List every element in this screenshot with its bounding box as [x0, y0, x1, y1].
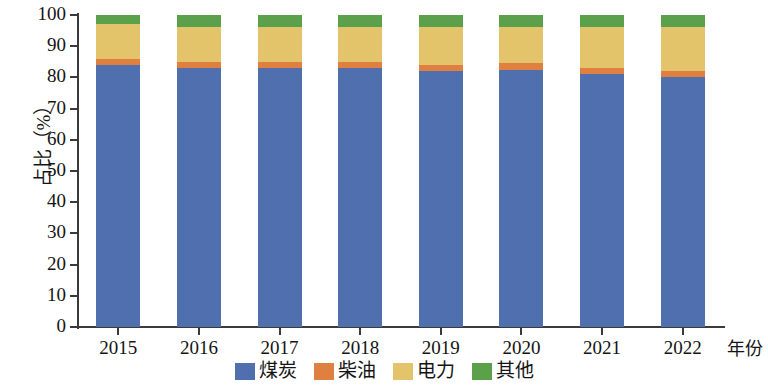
bar-segment [258, 15, 302, 27]
bar-stack [661, 15, 705, 327]
bar-segment [419, 71, 463, 327]
y-tick-mark [70, 295, 78, 297]
y-tick-label: 70 [0, 98, 66, 117]
bar-segment [338, 27, 382, 61]
bar-segment [580, 74, 624, 327]
bar-segment [338, 68, 382, 327]
bar-stack [338, 15, 382, 327]
bar-stack [96, 15, 140, 327]
y-tick-label: 30 [0, 222, 66, 241]
legend-item[interactable]: 电力 [393, 361, 455, 381]
bar-segment [96, 24, 140, 58]
x-tick-mark [682, 328, 684, 335]
legend-item[interactable]: 其他 [472, 361, 534, 381]
x-tick-label: 2017 [235, 337, 325, 359]
y-tick-label: 40 [0, 191, 66, 210]
bar-segment [661, 71, 705, 77]
bar-stack [499, 15, 543, 327]
x-tick-mark [440, 328, 442, 335]
x-tick-mark [520, 328, 522, 335]
legend-label: 柴油 [338, 361, 376, 381]
bar-stack [258, 15, 302, 327]
bar-segment [499, 63, 543, 69]
bar-segment [177, 27, 221, 61]
y-tick-label: 10 [0, 285, 66, 304]
x-tick-label: 2020 [476, 337, 566, 359]
bar-segment [258, 62, 302, 68]
y-tick-mark [70, 264, 78, 266]
bar-segment [499, 70, 543, 327]
bar-segment [580, 68, 624, 74]
y-tick-label: 100 [0, 4, 66, 23]
x-tick-mark [279, 328, 281, 335]
y-tick-mark [70, 232, 78, 234]
y-tick-mark [70, 201, 78, 203]
bar-segment [177, 15, 221, 27]
bar-segment [96, 65, 140, 327]
y-tick-mark [70, 326, 78, 328]
bar-segment [338, 15, 382, 27]
legend-item[interactable]: 煤炭 [235, 361, 297, 381]
y-tick-mark [70, 14, 78, 16]
bar-segment [661, 27, 705, 71]
legend-swatch-icon [235, 363, 255, 380]
bar-segment [258, 68, 302, 327]
stacked-bar-chart: 占比（%） 0102030405060708090100 20152016201… [0, 0, 768, 386]
plot-area [78, 15, 723, 327]
x-tick-mark [117, 328, 119, 335]
bar-segment [419, 65, 463, 71]
y-tick-mark [70, 108, 78, 110]
bar-segment [661, 15, 705, 27]
legend-swatch-icon [472, 363, 492, 380]
x-axis-title: 年份 [727, 338, 763, 360]
y-tick-mark [70, 170, 78, 172]
bar-segment [419, 27, 463, 64]
y-tick-label: 90 [0, 35, 66, 54]
y-tick-mark [70, 45, 78, 47]
bar-segment [96, 15, 140, 24]
x-tick-label: 2019 [396, 337, 486, 359]
x-tick-mark [359, 328, 361, 335]
x-tick-label: 2016 [154, 337, 244, 359]
y-tick-label: 20 [0, 254, 66, 273]
x-tick-label: 2018 [315, 337, 405, 359]
bar-stack [580, 15, 624, 327]
legend-swatch-icon [393, 363, 413, 380]
bar-segment [258, 27, 302, 61]
bar-segment [96, 59, 140, 65]
y-tick-mark [70, 139, 78, 141]
legend-label: 其他 [496, 361, 534, 381]
x-tick-label: 2022 [638, 337, 728, 359]
bar-segment [338, 62, 382, 68]
legend-swatch-icon [314, 363, 334, 380]
bar-segment [580, 15, 624, 27]
legend-item[interactable]: 柴油 [314, 361, 376, 381]
chart-legend: 煤炭柴油电力其他 [0, 361, 768, 381]
y-tick-label: 60 [0, 129, 66, 148]
bar-segment [499, 27, 543, 63]
bar-segment [661, 77, 705, 327]
bar-segment [419, 15, 463, 27]
bar-stack [419, 15, 463, 327]
x-tick-label: 2021 [557, 337, 647, 359]
bar-segment [177, 68, 221, 327]
y-tick-label: 50 [0, 160, 66, 179]
x-tick-mark [601, 328, 603, 335]
bar-stack [177, 15, 221, 327]
legend-label: 电力 [417, 361, 455, 381]
bar-segment [499, 15, 543, 27]
x-tick-label: 2015 [73, 337, 163, 359]
bar-segment [177, 62, 221, 68]
legend-label: 煤炭 [259, 361, 297, 381]
y-tick-label: 80 [0, 66, 66, 85]
x-tick-mark [198, 328, 200, 335]
y-tick-mark [70, 76, 78, 78]
bar-segment [580, 27, 624, 68]
y-tick-label: 0 [0, 316, 66, 335]
